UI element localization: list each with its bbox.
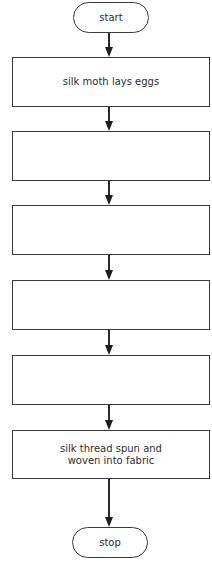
stop-label: stop: [99, 537, 121, 549]
step-label: silk thread spun and woven into fabric: [46, 443, 176, 467]
process-step-5-blank: [12, 355, 210, 405]
arrow-down-icon: [105, 270, 113, 280]
start-terminal: start: [73, 2, 149, 33]
connector-line: [108, 479, 110, 518]
process-step-3-blank: [12, 205, 210, 255]
stop-terminal: stop: [72, 527, 148, 558]
connector-line: [108, 330, 110, 346]
arrow-down-icon: [105, 195, 113, 205]
connector-line: [108, 180, 110, 196]
arrow-down-icon: [105, 47, 113, 57]
start-label: start: [99, 12, 122, 24]
connector-line: [108, 107, 110, 122]
process-step-1: silk moth lays eggs: [12, 57, 210, 107]
arrow-down-icon: [105, 420, 113, 430]
process-step-4-blank: [12, 280, 210, 330]
arrow-down-icon: [105, 517, 113, 527]
connector-line: [108, 33, 110, 48]
process-step-2-blank: [12, 131, 210, 181]
arrow-down-icon: [105, 345, 113, 355]
arrow-down-icon: [105, 121, 113, 131]
process-step-6: silk thread spun and woven into fabric: [12, 430, 210, 479]
connector-line: [108, 255, 110, 271]
connector-line: [108, 404, 110, 421]
step-label: silk moth lays eggs: [63, 76, 159, 88]
